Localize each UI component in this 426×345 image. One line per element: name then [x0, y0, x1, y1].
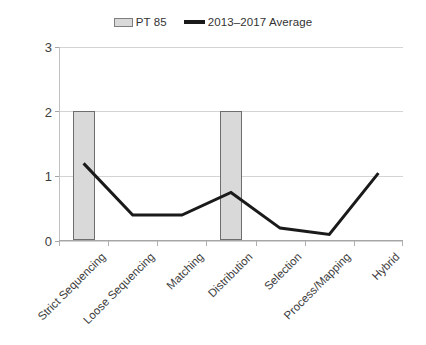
- x-tick-mark-3: [206, 241, 207, 246]
- x-tick-mark-0: [59, 241, 60, 246]
- line-series-average: [59, 47, 403, 241]
- plot-area: 0123: [59, 47, 403, 241]
- x-axis-labels: Strict SequencingLoose SequencingMatchin…: [59, 247, 403, 343]
- x-tick-mark-5: [305, 241, 306, 246]
- x-tick-mark-7: [402, 241, 403, 246]
- legend-label-average: 2013–2017 Average: [208, 16, 312, 28]
- line-swatch-icon: [184, 20, 205, 24]
- x-axis-label-distribution: Distribution: [206, 251, 255, 300]
- chart-container: PT 85 2013–2017 Average 0123 Strict Sequ…: [0, 0, 426, 345]
- y-tick-label-0: 0: [45, 235, 52, 248]
- x-tick-mark-4: [256, 241, 257, 246]
- legend-entry-pt85: PT 85: [114, 16, 167, 28]
- x-tick-mark-6: [354, 241, 355, 246]
- x-axis-ticks: [59, 241, 403, 246]
- average-polyline: [84, 163, 379, 234]
- x-axis-label-matching: Matching: [165, 251, 206, 292]
- x-tick-mark-2: [157, 241, 158, 246]
- x-axis-label-hybrid: Hybrid: [371, 251, 403, 283]
- legend-label-pt85: PT 85: [136, 16, 167, 28]
- bar-swatch-icon: [114, 18, 133, 27]
- y-tick-label-2: 2: [45, 105, 52, 118]
- y-tick-label-3: 3: [45, 41, 52, 54]
- legend-entry-average: 2013–2017 Average: [184, 16, 312, 28]
- chart-legend: PT 85 2013–2017 Average: [0, 16, 426, 28]
- x-tick-mark-1: [108, 241, 109, 246]
- x-axis-label-selection: Selection: [263, 251, 305, 293]
- y-tick-label-1: 1: [45, 170, 52, 183]
